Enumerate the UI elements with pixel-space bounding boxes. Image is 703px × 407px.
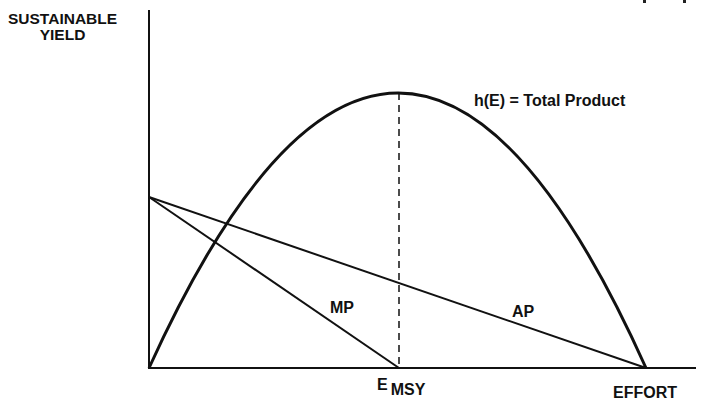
mp-label: MP [330, 299, 354, 317]
emsy-tick-label: EMSY [377, 376, 425, 394]
emsy-subscript: MSY [391, 381, 426, 398]
y-axis-label-line1: SUSTAINABLE [8, 11, 117, 27]
ap-label: AP [512, 303, 534, 321]
total-product-curve [149, 93, 646, 368]
total-product-label: h(E) = Total Product [474, 92, 625, 110]
x-axis-label: EFFORT [613, 384, 677, 402]
mp-line [149, 197, 399, 368]
corner-mark-left [643, 0, 646, 3]
y-axis-label-line2: YIELD [8, 27, 117, 43]
diagram-canvas [0, 0, 703, 407]
ap-line [149, 197, 646, 368]
corner-mark-right [683, 0, 686, 3]
y-axis-label: SUSTAINABLE YIELD [8, 11, 117, 43]
emsy-main: E [377, 376, 388, 393]
